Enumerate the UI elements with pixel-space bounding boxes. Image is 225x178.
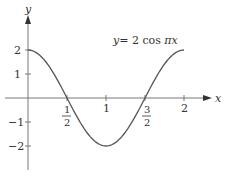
x-tick-denominator: 2 xyxy=(64,117,70,128)
chart-svg: y x 2 1 −1 −2 1 2 1 3 2 xyxy=(0,0,225,178)
y-tick-label: −1 xyxy=(8,116,24,129)
x-tick-label: 1 xyxy=(103,102,110,115)
y-axis-arrow-icon xyxy=(25,15,31,24)
x-tick-numerator: 3 xyxy=(144,104,150,115)
y-tick-label: 2 xyxy=(14,44,21,57)
x-axis-label: x xyxy=(215,92,222,105)
y-tick-label: −2 xyxy=(8,140,24,153)
annotation-eq: = 2 cos xyxy=(119,34,164,47)
y-tick-label: 1 xyxy=(14,68,21,81)
chart: y x 2 1 −1 −2 1 2 1 3 2 xyxy=(0,0,225,178)
x-tick-label: 2 xyxy=(181,102,188,115)
x-axis-arrow-icon xyxy=(203,95,212,101)
x-tick-numerator: 1 xyxy=(64,104,70,115)
y-axis-label: y xyxy=(24,3,32,16)
curve-annotation: y= 2 cos πx xyxy=(112,34,179,47)
annotation-x: x xyxy=(172,34,179,47)
x-tick-denominator: 2 xyxy=(144,117,150,128)
